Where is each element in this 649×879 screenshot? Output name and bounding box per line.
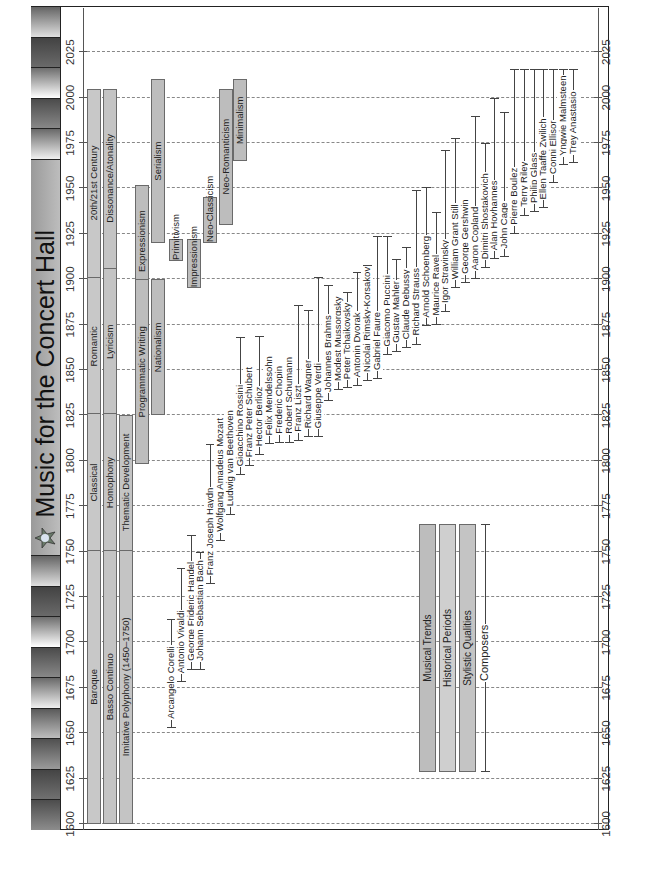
top-axis-line	[83, 8, 84, 830]
top-tick-label: 1750	[64, 532, 76, 572]
grid-line	[87, 732, 594, 733]
top-tick	[79, 505, 87, 506]
top-tick-label: 1900	[64, 259, 76, 299]
birth-cap	[383, 354, 392, 355]
top-tick	[79, 460, 87, 461]
top-tick-label: 1875	[64, 305, 76, 345]
birth-cap	[559, 164, 568, 165]
bottom-tick-label: 1650	[600, 713, 612, 753]
top-tick	[79, 687, 87, 688]
musical-trend-bar: Neo-Classicism	[203, 198, 217, 243]
death-cap	[314, 277, 323, 278]
stylistic-quality-label: Dissonance/Atonality	[104, 88, 116, 270]
musical-trend-label: Neo-Romanticism	[220, 90, 232, 224]
top-tick	[79, 97, 87, 98]
musical-trend-label: Minimalism	[234, 80, 246, 160]
death-cap	[187, 535, 196, 536]
musical-trend-bar: Minimalism	[233, 79, 247, 161]
birth-cap	[481, 267, 490, 268]
bottom-tick-label: 1825	[600, 395, 612, 435]
death-cap	[451, 138, 460, 139]
birth-cap	[432, 324, 441, 325]
top-tick-label: 1725	[64, 577, 76, 617]
grid-line	[87, 51, 594, 52]
stylistic-quality-2-label: Imitative Polyphony (1450–1750)	[120, 551, 132, 823]
title-box: Music for the Concert Hall	[31, 159, 60, 556]
death-cap	[324, 285, 333, 286]
bottom-tick-label: 1725	[600, 577, 612, 617]
historical-period-label: Romantic	[88, 278, 100, 414]
birth-cap	[392, 351, 401, 352]
banner-tile	[31, 678, 60, 709]
birth-cap	[177, 681, 186, 682]
top-tick-label: 1600	[64, 804, 76, 844]
death-cap	[412, 190, 421, 191]
birth-cap	[167, 727, 176, 728]
banner-tile	[31, 739, 60, 770]
grid-line	[87, 778, 594, 779]
top-tick-label: 1625	[64, 759, 76, 799]
death-cap	[539, 69, 548, 70]
banner-tile	[31, 129, 60, 160]
top-tick	[79, 233, 87, 234]
composer-star-icon	[34, 528, 56, 550]
death-cap	[490, 98, 499, 99]
birth-cap	[226, 514, 235, 515]
top-tick-label: 1925	[64, 214, 76, 254]
bottom-tick-label: 1950	[600, 168, 612, 208]
grid-line	[87, 551, 594, 552]
banner-tile	[31, 586, 60, 617]
death-cap	[559, 69, 568, 70]
historical-period-label: Classical	[88, 414, 100, 550]
stylistic-quality-row: Basso ContinuoHomophonyLyricismDissonanc…	[103, 89, 117, 824]
birth-cap	[265, 443, 274, 444]
birth-cap	[294, 440, 303, 441]
death-cap	[500, 112, 509, 113]
top-tick	[79, 142, 87, 143]
page-title: Music for the Concert Hall	[31, 230, 60, 556]
grid-line	[87, 505, 594, 506]
banner-tile	[31, 800, 60, 831]
birth-cap	[196, 669, 205, 670]
stylistic-quality-label: Basso Continuo	[104, 551, 116, 823]
birth-cap	[451, 287, 460, 288]
birth-cap	[275, 442, 284, 443]
banner-tile	[31, 617, 60, 648]
death-cap	[520, 69, 529, 70]
musical-trend-bar: Neo-Romanticism	[219, 89, 233, 225]
birth-cap	[216, 540, 225, 541]
bottom-tick-label: 1975	[600, 123, 612, 163]
birth-cap	[530, 211, 539, 212]
birth-cap	[187, 669, 196, 670]
death-cap	[510, 69, 519, 70]
bottom-tick-label: 1775	[600, 486, 612, 526]
top-tick-label: 1825	[64, 395, 76, 435]
birth-cap	[441, 311, 450, 312]
death-cap	[402, 247, 411, 248]
birth-cap	[490, 258, 499, 259]
top-tick	[79, 278, 87, 279]
birth-cap	[520, 215, 529, 216]
bottom-tick-label: 1600	[600, 804, 612, 844]
grid-line	[87, 687, 594, 688]
birth-cap	[539, 207, 548, 208]
death-cap	[471, 116, 480, 117]
banner-tile	[31, 769, 60, 800]
top-tick	[79, 324, 87, 325]
birth-cap	[255, 454, 264, 455]
top-tick	[79, 414, 87, 415]
birth-cap	[569, 162, 578, 163]
birth-cap	[285, 442, 294, 443]
birth-cap	[412, 344, 421, 345]
composer-lifespan: Trey Anastasio	[569, 69, 578, 163]
death-cap	[383, 236, 392, 237]
top-tick	[79, 369, 87, 370]
musical-trend-bar: Primitivism	[169, 239, 183, 261]
death-cap	[255, 336, 264, 337]
musical-trend-label: Programmatic Writing	[136, 280, 148, 463]
top-tick-label: 1675	[64, 668, 76, 708]
top-tick	[79, 823, 87, 824]
composer-name: Trey Anastasio	[567, 91, 579, 155]
grid-line	[87, 823, 594, 824]
death-cap	[441, 150, 450, 151]
